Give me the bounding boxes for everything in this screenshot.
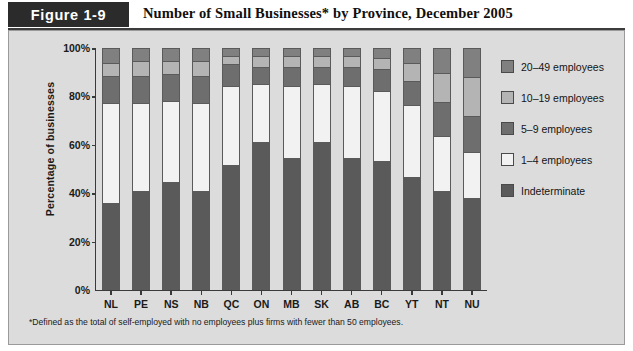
bar-segment [284, 49, 300, 56]
y-axis-tick-label: 20% [69, 236, 90, 248]
bar-segment [103, 63, 119, 76]
x-axis-tick-label-bc: BC [367, 298, 397, 310]
bar-segment [163, 182, 179, 289]
legend-item: Indeterminate [501, 175, 621, 206]
legend-label: 5–9 employees [521, 123, 592, 135]
x-axis-tick-mark [291, 290, 293, 295]
bar-segment [253, 67, 269, 85]
bar-segment [223, 86, 239, 165]
bar-column-ns: NS [156, 48, 186, 290]
bar-segment [253, 56, 269, 66]
bar-segment [163, 101, 179, 182]
bar-segment [193, 61, 209, 76]
legend-label: 20–49 employees [521, 61, 604, 73]
bar-segment [374, 91, 390, 160]
bar-segment [434, 49, 450, 73]
bar-segment [344, 67, 360, 87]
bar-segment [133, 191, 149, 289]
x-axis-tick-mark [411, 290, 413, 295]
legend-item: 10–19 employees [501, 82, 621, 113]
x-axis-tick-mark [140, 290, 142, 295]
stacked-bar [162, 48, 180, 290]
x-axis-tick-label-nl: NL [96, 298, 126, 310]
x-axis-tick-label-sk: SK [307, 298, 337, 310]
figure-footnote: *Defined as the total of self-employed w… [29, 317, 403, 327]
bar-segment [434, 102, 450, 136]
legend-swatch [501, 60, 514, 73]
figure-container: Figure 1-9 Number of Small Businesses* b… [0, 0, 633, 351]
bar-column-mb: MB [276, 48, 306, 290]
x-axis-tick-label-nt: NT [427, 298, 457, 310]
x-axis-tick-label-ab: AB [337, 298, 367, 310]
x-axis-tick-mark [261, 290, 263, 295]
bar-segment [133, 76, 149, 103]
bar-segment [374, 49, 390, 58]
bar-segment [253, 84, 269, 142]
y-axis-tick-label: 100% [63, 42, 90, 54]
bar-column-ab: AB [337, 48, 367, 290]
bar-segment [434, 136, 450, 191]
bar-segment [374, 161, 390, 289]
x-axis-tick-mark [381, 290, 383, 295]
bar-column-nu: NU [457, 48, 487, 290]
x-axis-tick-mark [231, 290, 233, 295]
legend-item: 1–4 employees [501, 144, 621, 175]
chart-legend: 20–49 employees10–19 employees5–9 employ… [501, 51, 621, 206]
bar-segment [314, 56, 330, 66]
bar-segment [374, 58, 390, 68]
y-axis-tick-label: 0% [75, 284, 90, 296]
bar-segment [223, 64, 239, 86]
stacked-bar [222, 48, 240, 290]
bar-segment [344, 49, 360, 56]
bar-segment [464, 77, 480, 116]
legend-swatch [501, 91, 514, 104]
legend-swatch [501, 184, 514, 197]
bar-segment [404, 105, 420, 177]
y-axis-tick-label: 60% [69, 139, 90, 151]
bar-segment [404, 81, 420, 106]
stacked-bar [403, 48, 421, 290]
bar-column-on: ON [246, 48, 276, 290]
bar-segment [284, 56, 300, 66]
bar-segment [193, 76, 209, 103]
bar-column-nt: NT [427, 48, 457, 290]
x-axis-tick-mark [321, 290, 323, 295]
figure-number-tag: Figure 1-9 [8, 2, 129, 27]
bar-column-sk: SK [307, 48, 337, 290]
bar-column-bc: BC [367, 48, 397, 290]
legend-swatch [501, 153, 514, 166]
bar-segment [464, 116, 480, 152]
legend-label: 10–19 employees [521, 92, 604, 104]
bar-segment [284, 86, 300, 158]
bar-segment [103, 76, 119, 103]
bar-segment [163, 74, 179, 101]
bar-segment [103, 103, 119, 203]
bar-segment [163, 49, 179, 61]
bar-column-yt: YT [397, 48, 427, 290]
y-axis-title: Percentage of businesses [44, 64, 56, 234]
x-axis-tick-label-mb: MB [276, 298, 306, 310]
x-axis-tick-mark [441, 290, 443, 295]
bar-segment [133, 61, 149, 76]
bar-segment [464, 198, 480, 289]
bar-segment [314, 84, 330, 142]
bar-segment [404, 63, 420, 81]
stacked-bar [373, 48, 391, 290]
y-axis-tick-label: 40% [69, 187, 90, 199]
x-axis-tick-label-nb: NB [186, 298, 216, 310]
stacked-bar [192, 48, 210, 290]
bar-segment [103, 203, 119, 289]
bar-segment [314, 49, 330, 56]
bar-segment [344, 56, 360, 66]
stacked-bar [433, 48, 451, 290]
bar-segment [193, 191, 209, 289]
x-axis-tick-mark [351, 290, 353, 295]
legend-item: 20–49 employees [501, 51, 621, 82]
bar-segment [314, 67, 330, 85]
bar-segment [223, 165, 239, 289]
x-axis-tick-label-ns: NS [156, 298, 186, 310]
bar-segment [223, 56, 239, 64]
bar-segment [193, 103, 209, 191]
bar-segment [193, 49, 209, 61]
bar-series-group: NLPENSNBQCONMBSKABBCYTNTNU [96, 48, 487, 290]
